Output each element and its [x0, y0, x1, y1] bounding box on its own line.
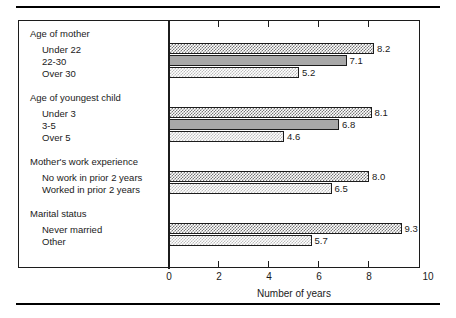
bar-under-3: [169, 107, 372, 118]
bottom-horizontal-rule: [16, 303, 440, 305]
bar-value-over-30: 5.2: [302, 67, 315, 78]
tick-bottom-0: [168, 261, 169, 268]
category-label-column: Age of mother Under 22 22-30 Over 30 Age…: [18, 20, 168, 268]
bar-other: [169, 235, 312, 246]
tick-bottom-6: [318, 261, 319, 268]
bar-3-5: [169, 119, 339, 130]
tick-top-2: [218, 20, 219, 27]
tick-label-8: 8: [366, 271, 372, 283]
bars-layer: 8.2 7.1 5.2 8.1 6.8 4.6 8.0 6.5 9.3 5.7: [169, 20, 420, 268]
group-title-age-of-mother: Age of mother: [30, 28, 90, 39]
category-label-no-work-in-prior-2-years: No work in prior 2 years: [42, 172, 142, 183]
bar-chart-figure: Age of mother Under 22 22-30 Over 30 Age…: [0, 0, 456, 318]
category-label-worked-in-prior-2-years: Worked in prior 2 years: [42, 184, 140, 195]
tick-label-2: 2: [216, 271, 222, 283]
category-label-over-5: Over 5: [42, 132, 71, 143]
bar-value-worked-in-prior-2-years: 6.5: [335, 183, 348, 194]
tick-bottom-8: [368, 261, 369, 268]
bar-over-30: [169, 67, 299, 78]
tick-top-4: [268, 20, 269, 27]
category-label-22-30: 22-30: [42, 56, 66, 67]
bar-no-work-in-prior-2-years: [169, 171, 369, 182]
group-title-marital-status: Marital status: [30, 208, 87, 219]
bar-value-over-5: 4.6: [287, 131, 300, 142]
category-label-under-3: Under 3: [42, 108, 76, 119]
bar-value-never-married: 9.3: [405, 223, 418, 234]
tick-bottom-4: [268, 261, 269, 268]
group-title-mothers-work-experience: Mother's work experience: [30, 156, 138, 167]
bar-value-other: 5.7: [315, 235, 328, 246]
category-label-under-22: Under 22: [42, 44, 81, 55]
tick-bottom-2: [218, 261, 219, 268]
category-label-3-5: 3-5: [42, 120, 56, 131]
bar-value-3-5: 6.8: [342, 119, 355, 130]
bar-over-5: [169, 131, 284, 142]
top-horizontal-rule: [16, 6, 440, 8]
category-label-other: Other: [42, 236, 66, 247]
tick-top-6: [318, 20, 319, 27]
bar-value-under-3: 8.1: [375, 107, 388, 118]
group-title-age-of-youngest-child: Age of youngest child: [30, 92, 121, 103]
category-label-never-married: Never married: [42, 224, 102, 235]
tick-label-0: 0: [166, 271, 172, 283]
bar-value-22-30: 7.1: [350, 55, 363, 66]
bar-never-married: [169, 223, 402, 234]
bar-22-30: [169, 55, 347, 66]
bar-value-under-22: 8.2: [377, 43, 390, 54]
bar-value-no-work-in-prior-2-years: 8.0: [372, 171, 385, 182]
bar-worked-in-prior-2-years: [169, 183, 332, 194]
category-label-over-30: Over 30: [42, 68, 76, 79]
bar-under-22: [169, 43, 374, 54]
x-axis-title: Number of years: [168, 288, 420, 300]
tick-label-10: 10: [422, 271, 433, 283]
tick-label-4: 4: [266, 271, 272, 283]
tick-label-6: 6: [316, 271, 322, 283]
tick-top-8: [368, 20, 369, 27]
